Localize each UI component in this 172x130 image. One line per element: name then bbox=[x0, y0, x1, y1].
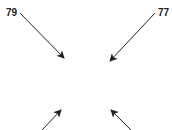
arrow-bottom-left bbox=[42, 110, 61, 130]
arrow-77 bbox=[110, 13, 155, 61]
arrow-79 bbox=[20, 13, 64, 58]
reference-label-79: 79 bbox=[6, 8, 17, 18]
diagram-canvas: 79 77 bbox=[0, 0, 172, 130]
reference-label-77: 77 bbox=[158, 8, 169, 18]
arrow-bottom-right bbox=[111, 110, 131, 130]
arrows-layer bbox=[0, 0, 172, 130]
